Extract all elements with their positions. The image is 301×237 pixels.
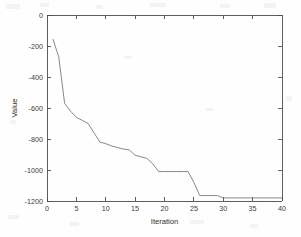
x-tick-label: 10	[102, 204, 110, 213]
x-tick-label: 30	[219, 204, 227, 213]
y-tick-label: -800	[29, 135, 43, 144]
y-tick-label: 0	[39, 11, 43, 20]
x-tick-label: 20	[161, 204, 169, 213]
x-tick-label: 40	[278, 204, 286, 213]
y-axis-title: Value	[10, 99, 19, 118]
y-tick-label: -1000	[25, 166, 43, 175]
figure-canvas: 0 -200 -400 -600 -800 -1000 -1200 0 5 10…	[0, 0, 301, 237]
axes-box	[47, 15, 282, 201]
x-tick-label: 35	[249, 204, 257, 213]
x-tick-label: 25	[190, 204, 198, 213]
x-axis-ticks	[47, 15, 282, 201]
x-axis-title: Iteration	[151, 217, 178, 226]
data-series-line	[53, 39, 282, 198]
plot-frame	[47, 15, 282, 201]
x-tick-label: 0	[45, 204, 49, 213]
x-tick-label: 5	[74, 204, 78, 213]
y-axis-ticks	[47, 15, 282, 201]
y-tick-label: -600	[29, 104, 43, 113]
y-tick-label: -200	[29, 42, 43, 51]
x-tick-labels: 0 5 10 15 20 25 30 35 40	[45, 204, 286, 213]
x-tick-label: 15	[131, 204, 139, 213]
convergence-chart: 0 -200 -400 -600 -800 -1000 -1200 0 5 10…	[0, 0, 301, 237]
y-tick-label: -400	[29, 73, 43, 82]
y-tick-labels: 0 -200 -400 -600 -800 -1000 -1200	[25, 11, 43, 206]
y-tick-label: -1200	[25, 197, 43, 206]
